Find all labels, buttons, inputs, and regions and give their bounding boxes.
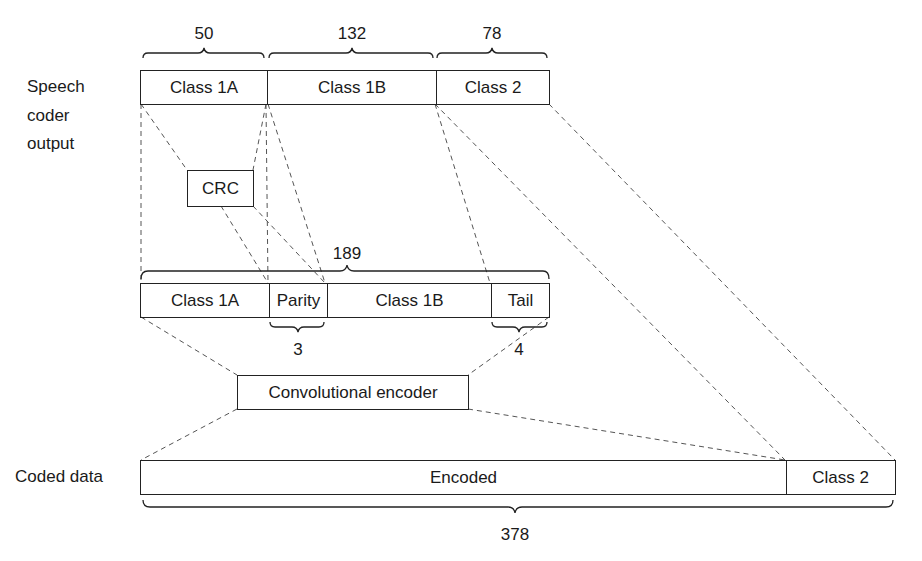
brace-tail [492,322,547,332]
brace-parity [270,322,324,332]
bits-class2: 78 [483,24,502,44]
segment-class1a: Class 1A [141,284,269,317]
speech-coder-output-bar: Class 1A Class 1B Class 2 [140,70,550,105]
brace-class1a [143,48,264,58]
total-bits-378: 378 [501,525,529,545]
segment-encoded: Encoded [141,461,786,494]
bits-class1a: 50 [195,24,214,44]
crc-box: CRC [187,170,254,207]
row-label-output: output [27,134,74,154]
bits-parity: 3 [293,340,302,360]
bits-tail: 4 [514,340,523,360]
brace-class2 [437,48,547,58]
total-bits-189: 189 [333,244,361,264]
convolutional-encoder-box: Convolutional encoder [237,375,469,410]
segment-tail: Tail [491,284,549,317]
segment-class2: Class 2 [786,461,894,494]
segment-parity: Parity [269,284,327,317]
segment-class1b: Class 1B [267,71,436,104]
brace-378 [143,500,893,513]
segment-class1b: Class 1B [327,284,491,317]
row-label-speech: Speech [27,77,85,97]
brace-class1b [269,48,433,58]
row-label-coder: coder [27,106,70,126]
row-label-coded-data: Coded data [15,467,103,487]
braces [141,48,893,513]
segment-class1a: Class 1A [141,71,267,104]
coded-data-bar: Encoded Class 2 [140,460,896,495]
bits-class1b: 132 [338,24,366,44]
protected-bits-bar: Class 1A Parity Class 1B Tail [140,283,550,318]
segment-class2: Class 2 [436,71,549,104]
